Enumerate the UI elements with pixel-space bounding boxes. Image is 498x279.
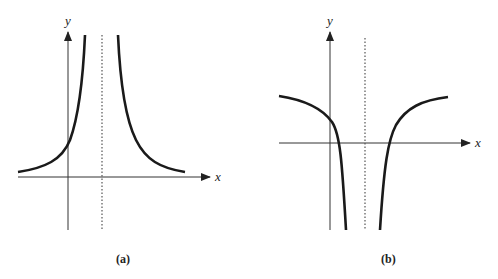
graph-b: x y (b) bbox=[279, 13, 481, 266]
graph-a: x y (a) bbox=[18, 13, 221, 266]
curve-a-right bbox=[118, 35, 185, 172]
figure-canvas: x y (a) x y (b) bbox=[0, 0, 498, 279]
x-label-a: x bbox=[214, 169, 221, 184]
x-label-b: x bbox=[474, 135, 481, 150]
curve-a-left bbox=[18, 35, 85, 172]
curve-b-right bbox=[380, 97, 448, 230]
y-label-a: y bbox=[63, 13, 71, 28]
caption-b: (b) bbox=[381, 252, 396, 266]
curve-b-left bbox=[279, 96, 346, 230]
y-label-b: y bbox=[325, 13, 333, 28]
caption-a: (a) bbox=[116, 252, 130, 266]
